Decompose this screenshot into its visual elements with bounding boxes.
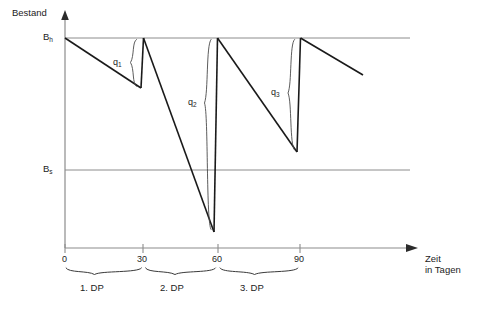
level-label-bs: Bs [43,164,53,175]
brace-period-2 [146,268,216,275]
chart-canvas [0,0,491,309]
order-quantity-label-q2-sub: 2 [193,101,197,108]
axes-group [61,10,418,252]
brace-period-1 [66,268,142,275]
level-label-bs-sub: s [49,168,52,175]
y-axis-arrowhead [61,10,69,20]
x-tick-label-0: 0 [62,254,67,264]
x-axis-title: Zeitin Tagen [425,253,461,275]
period-braces-group [66,268,298,275]
brace-q2 [205,40,212,230]
x-axis-title-line2: in Tagen [425,264,461,275]
x-axis-title-line1: Zeit [425,253,441,264]
x-tick-label-30: 30 [137,254,147,264]
period-label-2: 2. DP [160,283,184,294]
level-label-bh-sub: h [49,36,53,43]
order-quantity-label-q2: q2 [188,97,197,107]
consumption-segment-2 [144,38,215,232]
x-tick-label-60: 60 [212,254,222,264]
order-quantity-label-q3-sub: 3 [276,91,280,98]
replenishment-segment-2 [214,38,218,232]
inventory-curve-group [65,38,363,232]
period-label-3: 3. DP [240,283,264,294]
order-quantity-label-q1-sub: 1 [118,61,122,68]
x-axis-arrowhead [406,244,418,252]
period-label-1: 1. DP [80,283,104,294]
order-quantity-label-q1: q1 [113,57,122,67]
x-tick-label-90: 90 [294,254,304,264]
y-axis-title: Bestand [12,8,47,19]
brace-period-3 [220,268,298,275]
replenishment-segment-1 [141,38,144,88]
brace-q1 [131,40,137,87]
consumption-segment-4 [301,38,364,75]
order-quantity-label-q3: q3 [271,87,280,97]
inventory-sawtooth-diagram: Bestand Zeitin Tagen Bh Bs 0 30 60 90 q1… [0,0,491,309]
brace-q3 [288,40,295,151]
consumption-segment-1 [65,38,141,88]
level-label-bh: Bh [43,32,53,43]
replenishment-segment-3 [297,38,301,152]
consumption-segment-3 [218,38,298,152]
